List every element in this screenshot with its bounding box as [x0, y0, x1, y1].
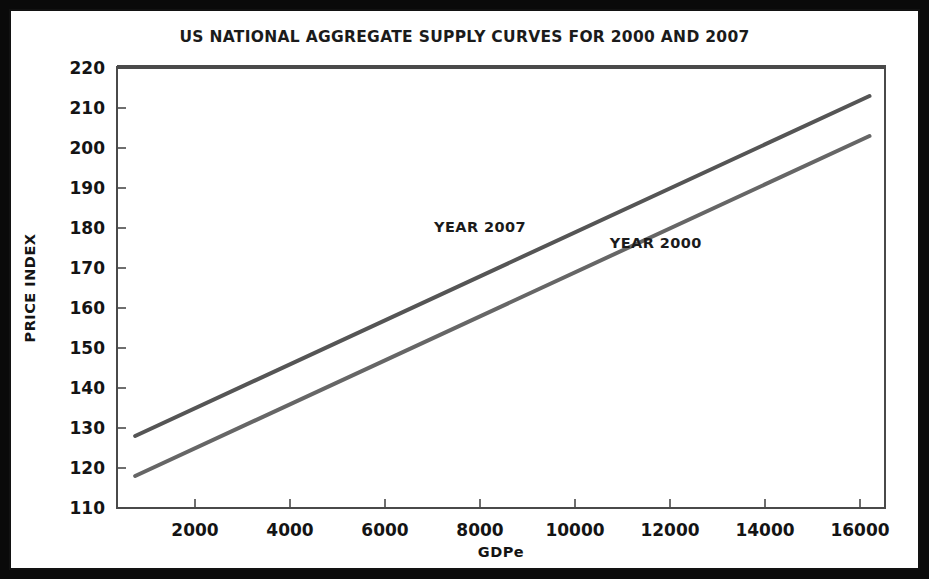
series-annotation: YEAR 2007 — [433, 219, 526, 235]
y-tick-label: 110 — [70, 498, 106, 518]
series-lines — [135, 96, 869, 476]
plot-area: 110120130140150160170180190200210220 200… — [0, 0, 929, 579]
x-tick-label: 10000 — [545, 520, 604, 540]
y-tick-label: 150 — [70, 338, 106, 358]
y-tick-label: 210 — [70, 98, 106, 118]
y-tick-label: 120 — [70, 458, 106, 478]
x-tick-label: 12000 — [640, 520, 699, 540]
series-line-year-2007 — [135, 96, 869, 436]
series-annotation: YEAR 2000 — [609, 235, 702, 251]
y-axis-ticks — [117, 68, 126, 508]
y-tick-label: 140 — [70, 378, 106, 398]
y-tick-label: 190 — [70, 178, 106, 198]
x-axis-ticks — [195, 499, 860, 508]
axis-lines — [117, 68, 885, 508]
y-tick-label: 200 — [70, 138, 106, 158]
y-tick-label: 130 — [70, 418, 106, 438]
y-tick-label: 160 — [70, 298, 106, 318]
y-tick-label: 220 — [70, 58, 106, 78]
x-tick-label: 16000 — [830, 520, 889, 540]
chart-figure: US NATIONAL AGGREGATE SUPPLY CURVES FOR … — [0, 0, 929, 579]
x-tick-label: 14000 — [735, 520, 794, 540]
x-tick-label: 6000 — [361, 520, 408, 540]
y-axis-title: PRICE INDEX — [22, 234, 38, 343]
x-axis-tick-labels: 200040006000800010000120001400016000 — [171, 520, 889, 540]
y-tick-label: 170 — [70, 258, 106, 278]
series-line-year-2000 — [135, 136, 869, 476]
y-tick-label: 180 — [70, 218, 106, 238]
x-tick-label: 4000 — [266, 520, 313, 540]
x-axis-title: GDPe — [478, 544, 524, 560]
y-axis-tick-labels: 110120130140150160170180190200210220 — [70, 58, 106, 518]
x-tick-label: 2000 — [171, 520, 218, 540]
x-tick-label: 8000 — [456, 520, 503, 540]
